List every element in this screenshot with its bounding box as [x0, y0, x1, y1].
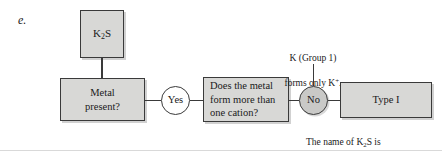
metal-present-line1: Metal	[90, 87, 115, 98]
connector-compound-to-metal	[101, 58, 103, 78]
yes-node: Yes	[161, 86, 190, 115]
connector-no-to-type	[328, 100, 340, 102]
connector-cation-to-no	[289, 100, 299, 102]
cation-question-line3: one cation?	[210, 107, 258, 118]
compound-formula: K2S	[93, 26, 111, 42]
cation-question-line2: form more than	[210, 94, 275, 105]
metal-present-line2: present?	[85, 101, 120, 112]
no-node: No	[299, 86, 328, 115]
item-letter: e.	[18, 14, 26, 26]
yes-node-label: Yes	[168, 95, 183, 106]
connector-annotation-to-no	[313, 64, 315, 86]
connector-metal-to-yes	[145, 100, 161, 102]
no-node-label: No	[307, 95, 320, 106]
name-annotation-line1: The name of K2S is	[306, 137, 381, 147]
cation-question-line1: Does the metal	[210, 80, 273, 91]
metal-present-text: Metal present?	[85, 86, 120, 113]
flowchart-figure: e. K2S Metal present? Yes Does the metal…	[0, 0, 442, 159]
group-annotation-line1: K (Group 1)	[290, 53, 337, 63]
metal-present-box: Metal present?	[60, 78, 145, 121]
bottom-divider	[0, 150, 442, 151]
type-result-label: Type I	[373, 93, 400, 106]
type-result-box: Type I	[340, 82, 432, 118]
compound-box: K2S	[80, 10, 124, 58]
name-annotation: The name of K2S is potassium sulfide.	[306, 124, 436, 159]
connector-yes-to-cation	[190, 100, 203, 102]
